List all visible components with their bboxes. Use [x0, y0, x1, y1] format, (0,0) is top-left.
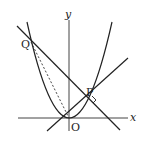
- point-p-label: P: [86, 86, 94, 99]
- y-axis-label: y: [64, 8, 72, 21]
- segment-qo-dashed: [31, 42, 69, 118]
- x-axis-label: x: [130, 111, 137, 124]
- diagram-canvas: y x O P Q: [0, 0, 142, 144]
- origin-label: O: [71, 121, 80, 134]
- point-q-label: Q: [21, 38, 30, 51]
